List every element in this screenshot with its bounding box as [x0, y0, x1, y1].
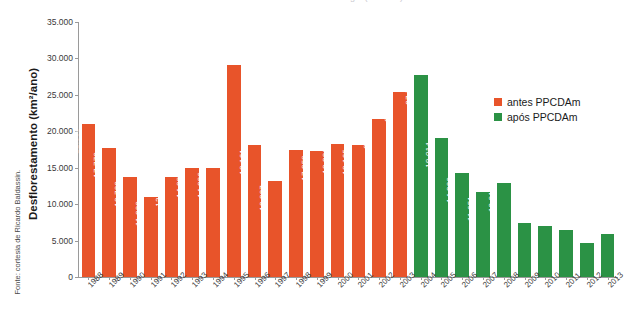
bar[interactable]: 27.772 [414, 75, 428, 277]
legend-item[interactable]: após PPCDAm [494, 111, 581, 123]
bar-series-group: 21.05017.77013.73011.03013.78614.89614.8… [78, 22, 618, 277]
bar-value-label: 14.286 [449, 151, 458, 177]
bar-value-label: 4.656 [576, 226, 585, 247]
bar[interactable]: 4.656 [580, 243, 594, 277]
bar-value-label: 5.843 [597, 217, 606, 238]
y-axis-title: Desflorestamento (km²/ano) [27, 49, 39, 239]
bar-value-label: 14.896 [200, 147, 209, 173]
bar[interactable]: 19.014 [435, 138, 449, 277]
y-tick-label: 20.000 [47, 126, 73, 136]
bar-value-label: 13.227 [262, 159, 271, 185]
y-tick-label: 5.000 [52, 236, 73, 246]
bar[interactable]: 18.161 [248, 145, 262, 277]
bar[interactable]: 6.418 [559, 230, 573, 277]
source-credit: Fonte: cortesia de Ricardo Baldassin. [13, 125, 22, 295]
bar-value-label: 29.059 [221, 44, 230, 70]
y-tick-label: 0 [68, 272, 73, 282]
bar[interactable]: 25.396 [393, 92, 407, 277]
bar-value-label: 17.259 [304, 130, 313, 156]
bar[interactable]: 13.227 [268, 181, 282, 277]
chart-legend: antes PPCDAmapós PPCDAm [494, 96, 581, 123]
chart-figure: Desmatamento na Amazônia Legal (km²/ano)… [0, 0, 625, 319]
bar-value-label: 14.896 [179, 147, 188, 173]
bar-value-label: 6.418 [556, 213, 565, 234]
bar[interactable]: 12.911 [497, 183, 511, 277]
bar-value-label: 27.772 [408, 53, 417, 79]
bar-value-label: 18.226 [325, 123, 334, 149]
plot-area: 05.00010.00015.00020.00025.00030.00035.0… [78, 22, 618, 277]
legend-swatch-icon [494, 98, 502, 106]
legend-item[interactable]: antes PPCDAm [494, 96, 581, 108]
bar-value-label: 17.770 [96, 126, 105, 152]
bar-value-label: 13.730 [117, 155, 126, 181]
y-tick-label: 15.000 [47, 163, 73, 173]
y-tick-label: 30.000 [47, 53, 73, 63]
legend-label: antes PPCDAm [507, 96, 581, 108]
bar-value-label: 25.396 [387, 70, 396, 96]
bar[interactable]: 18.165 [352, 145, 366, 277]
bar-value-label: 12.911 [491, 162, 500, 187]
y-tick-label: 35.000 [47, 17, 73, 27]
bar[interactable]: 14.286 [455, 173, 469, 277]
bar-value-label: 18.161 [242, 123, 251, 149]
bar-value-label: 11.651 [470, 171, 479, 196]
legend-label: após PPCDAm [507, 111, 578, 123]
legend-swatch-icon [494, 113, 502, 121]
bar[interactable]: 11.030 [144, 197, 158, 277]
y-tick-label: 25.000 [47, 90, 73, 100]
bar-value-label: 11.030 [138, 176, 147, 201]
bar[interactable]: 13.730 [123, 177, 137, 277]
bar[interactable]: 21.050 [82, 124, 96, 277]
bar-value-label: 19.014 [429, 117, 438, 143]
bar-value-label: 21.050 [76, 102, 85, 128]
chart-title: Desmatamento na Amazônia Legal (km²/ano) [0, 0, 625, 2]
bar-value-label: 7.000 [535, 209, 544, 230]
y-tick-label: 10.000 [47, 199, 73, 209]
y-tick-mark [75, 277, 78, 278]
bar[interactable]: 17.770 [102, 148, 116, 277]
bar-value-label: 18.165 [346, 123, 355, 149]
bar-value-label: 13.786 [159, 155, 168, 181]
bar[interactable]: 5.843 [601, 234, 615, 277]
bar-value-label: 21.651 [366, 98, 375, 124]
bar-value-label: 7.464 [514, 206, 523, 227]
bar[interactable]: 14.896 [206, 168, 220, 277]
bar-value-label: 17.383 [283, 129, 292, 155]
bar[interactable]: 21.651 [372, 119, 386, 277]
